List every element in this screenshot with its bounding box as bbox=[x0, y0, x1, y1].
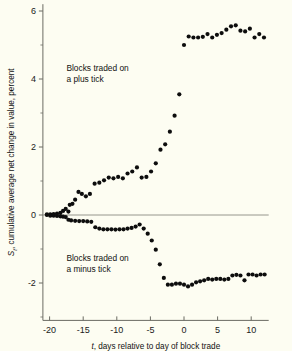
y-tick-label: 6 bbox=[31, 6, 36, 16]
data-point bbox=[73, 198, 77, 202]
data-point bbox=[178, 282, 182, 286]
data-point bbox=[234, 23, 238, 27]
data-point bbox=[206, 277, 210, 281]
data-point bbox=[242, 278, 246, 282]
scatter-plot-svg: 6420-2-20-15-10-50510 Blocks traded ona … bbox=[0, 0, 292, 351]
data-point bbox=[66, 210, 70, 214]
annotation-line-1: Blocks traded on bbox=[66, 253, 129, 263]
data-point bbox=[77, 219, 81, 223]
x-tick-label: -10 bbox=[110, 325, 123, 335]
data-point bbox=[70, 202, 74, 206]
data-point bbox=[254, 273, 258, 277]
annotation-line-2: a minus tick bbox=[66, 264, 111, 274]
data-point bbox=[248, 27, 252, 31]
data-point bbox=[182, 283, 186, 287]
data-point bbox=[205, 32, 209, 36]
data-point bbox=[194, 280, 198, 284]
data-point bbox=[201, 35, 205, 39]
data-point bbox=[210, 278, 214, 282]
data-point bbox=[113, 228, 117, 232]
data-point bbox=[196, 35, 200, 39]
data-point bbox=[230, 273, 234, 277]
data-point bbox=[158, 262, 162, 266]
data-point bbox=[210, 35, 214, 39]
data-point bbox=[73, 219, 77, 223]
data-point bbox=[224, 28, 228, 32]
data-point bbox=[150, 238, 154, 242]
data-point bbox=[105, 227, 109, 231]
data-point bbox=[154, 161, 158, 165]
data-point bbox=[162, 276, 166, 280]
data-point bbox=[102, 178, 106, 182]
data-point bbox=[243, 29, 247, 33]
data-point bbox=[220, 31, 224, 35]
data-point bbox=[111, 176, 115, 180]
data-point bbox=[69, 218, 73, 222]
data-point bbox=[174, 282, 178, 286]
data-point bbox=[89, 220, 93, 224]
data-point bbox=[190, 283, 194, 287]
data-point bbox=[234, 273, 238, 277]
data-point bbox=[250, 272, 254, 276]
data-point bbox=[85, 219, 89, 223]
data-point bbox=[238, 273, 242, 277]
data-point bbox=[218, 277, 222, 281]
data-point bbox=[140, 176, 144, 180]
y-tick-label: 4 bbox=[31, 74, 36, 84]
data-point bbox=[97, 181, 101, 185]
data-point bbox=[121, 227, 125, 231]
x-tick-label: 10 bbox=[246, 325, 256, 335]
data-point bbox=[154, 248, 158, 252]
data-point bbox=[88, 192, 92, 196]
data-point bbox=[163, 142, 167, 146]
data-point bbox=[121, 176, 125, 180]
data-point bbox=[144, 175, 148, 179]
data-point bbox=[97, 227, 101, 231]
data-point bbox=[166, 283, 170, 287]
data-point bbox=[116, 175, 120, 179]
x-tick-label: -5 bbox=[146, 325, 154, 335]
data-point bbox=[149, 169, 153, 173]
data-point bbox=[238, 29, 242, 33]
data-point bbox=[198, 279, 202, 283]
data-point bbox=[134, 224, 138, 228]
data-point bbox=[226, 277, 230, 281]
data-point bbox=[229, 24, 233, 28]
data-point bbox=[125, 171, 129, 175]
data-point bbox=[80, 192, 84, 196]
data-point bbox=[187, 34, 191, 38]
data-point bbox=[101, 227, 105, 231]
data-point bbox=[130, 169, 134, 173]
data-point bbox=[170, 283, 174, 287]
data-point bbox=[93, 182, 97, 186]
data-point bbox=[129, 226, 133, 230]
data-point bbox=[202, 278, 206, 282]
y-tick-label: -2 bbox=[28, 278, 36, 288]
data-point bbox=[263, 272, 267, 276]
y-tick-label: 0 bbox=[31, 210, 36, 220]
data-point bbox=[117, 227, 121, 231]
data-point bbox=[146, 232, 150, 236]
data-point bbox=[214, 277, 218, 281]
data-point bbox=[158, 148, 162, 152]
data-point bbox=[93, 225, 97, 229]
x-axis-title: t, days relative to day of block trade bbox=[91, 342, 220, 351]
data-point bbox=[107, 176, 111, 180]
data-point bbox=[172, 114, 176, 118]
data-point bbox=[138, 222, 142, 226]
data-point bbox=[262, 35, 266, 39]
data-point bbox=[222, 278, 226, 282]
data-point bbox=[259, 272, 263, 276]
data-point bbox=[186, 284, 190, 288]
data-point bbox=[182, 43, 186, 47]
data-point bbox=[177, 92, 181, 96]
data-point bbox=[246, 272, 250, 276]
x-tick-label: 5 bbox=[215, 325, 220, 335]
data-point bbox=[142, 227, 146, 231]
data-point bbox=[191, 35, 195, 39]
data-point bbox=[125, 227, 129, 231]
y-tick-label: 2 bbox=[31, 142, 36, 152]
annotation-line-2: a plus tick bbox=[66, 74, 104, 84]
data-point bbox=[84, 194, 88, 198]
x-tick-label: 0 bbox=[181, 325, 186, 335]
